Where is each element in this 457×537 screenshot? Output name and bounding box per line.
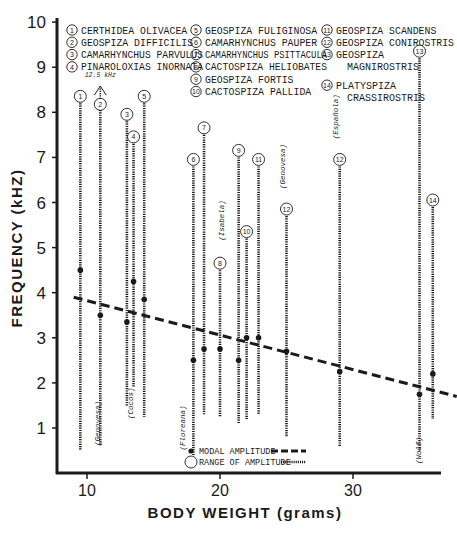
modal-dot	[256, 335, 262, 341]
y-tick-label: 3	[37, 329, 46, 348]
species-number: 9	[194, 76, 198, 83]
legend-modal-label: MODAL AMPLITUDE	[199, 447, 276, 457]
modal-dot	[201, 346, 207, 352]
species-marker-number: 14	[429, 197, 437, 204]
range-bars: 12(Genovesa)34(Cocos)56(Floreana)78(Isab…	[74, 45, 438, 464]
species-name: CACTOSPIZA PALLIDA	[205, 87, 311, 98]
range-bar-species-8: 8(Isabela)	[214, 200, 226, 416]
species-name: CAMARHYNCHUS PSITTACULA	[205, 50, 327, 61]
species-marker-number: 5	[142, 93, 146, 100]
modal-dot	[217, 346, 223, 352]
species-legend-item: 11GEOSPIZA SCANDENS	[322, 25, 437, 37]
species-number: 3	[70, 51, 74, 58]
modal-dot	[78, 267, 84, 273]
x-axis-label: BODY WEIGHT (grams)	[148, 504, 343, 521]
modal-dot	[244, 335, 250, 341]
legend-range-label: RANGE OF AMPLITUDE	[199, 458, 291, 468]
species-number: 10	[192, 88, 200, 95]
species-marker-number: 6	[191, 156, 195, 163]
modal-dot	[124, 319, 130, 325]
range-bar-species-4: 4(Cocos)	[127, 131, 140, 419]
circle-key	[185, 456, 197, 468]
range-bar-species-5: 5	[138, 90, 150, 416]
species-marker-number: 13	[416, 48, 424, 55]
range-bar-species-9: 9	[233, 144, 245, 423]
species-number: 2	[70, 39, 74, 46]
species-legend-item: 2GEOSPIZA DIFFICILIS	[67, 37, 193, 49]
modal-dot	[236, 358, 242, 364]
species-number: 7	[194, 51, 198, 58]
species-number: 12	[323, 39, 331, 46]
species-marker-number: 1	[78, 93, 82, 100]
species-name: GEOSPIZA DIFFICILIS	[81, 38, 193, 49]
overflow-annotation: 12.5 kHz	[85, 72, 116, 99]
arrow-note: 12.5 kHz	[85, 72, 116, 79]
species-marker-number: 12	[283, 206, 291, 213]
modal-dot	[191, 358, 197, 364]
species-marker-number: 12	[336, 156, 344, 163]
species-marker-number: 8	[218, 260, 222, 267]
range-bar-species-13: 13(Wolf)	[414, 45, 426, 464]
island-label: (Española)	[332, 94, 340, 139]
modal-dot-key	[188, 448, 193, 453]
species-number: 11	[323, 27, 330, 34]
species-number: 13	[323, 51, 331, 58]
species-legend-item: 10CACTOSPIZA PALLIDA	[191, 86, 311, 98]
y-tick-label: 6	[37, 194, 46, 213]
island-label: (Floreana)	[179, 405, 187, 450]
species-name: CAMARHYNCHUS PARVULUS	[81, 50, 203, 61]
species-legend: 1CERTHIDEA OLIVACEA2GEOSPIZA DIFFICILIS3…	[67, 25, 454, 104]
modal-amplitude-trend-line	[74, 297, 457, 396]
y-axis-label: FREQUENCY (kHZ)	[8, 169, 25, 328]
species-name: GEOSPIZA SCANDENS	[336, 26, 436, 37]
species-number: 6	[194, 39, 198, 46]
species-name: CERTHIDEA OLIVACEA	[81, 26, 187, 37]
range-bar-species-7: 7	[198, 122, 210, 415]
x-tick-label: 10	[78, 482, 96, 499]
x-tick-label: 30	[344, 482, 362, 499]
amplitude-legend: MODAL AMPLITUDERANGE OF AMPLITUDE	[185, 447, 306, 468]
species-legend-item: 5GEOSPIZA FULIGINOSA	[191, 25, 317, 37]
species-marker-number: 7	[202, 124, 206, 131]
species-marker-number: 11	[255, 156, 262, 163]
species-name: CAMARHYNCHUS PAUPER	[205, 38, 317, 49]
range-bar-species-1: 1	[74, 90, 86, 450]
range-bar-species-14: 14	[427, 194, 439, 419]
species-legend-item: 12GEOSPIZA CONIROSTRIS	[322, 37, 454, 49]
range-bar-species-6: 6(Floreana)	[179, 153, 199, 455]
species-legend-item: 7CAMARHYNCHUS PSITTACULA	[191, 49, 327, 61]
species-number: 1	[70, 27, 74, 34]
species-name: CACTOSPIZA HELIOBATES	[205, 62, 327, 73]
species-number: 4	[70, 64, 74, 71]
y-tick-label: 7	[37, 148, 46, 167]
range-bar-species-12: 12(Española)	[332, 94, 346, 446]
range-bar-species-11: 11	[253, 153, 265, 414]
species-number: 5	[194, 27, 198, 34]
species-marker-number: 2	[98, 101, 102, 108]
species-legend-item: 1CERTHIDEA OLIVACEA	[67, 25, 187, 37]
species-number: 14	[323, 82, 331, 89]
chart: 12345678910102030 1CERTHIDEA OLIVACEA2GE…	[0, 0, 457, 537]
modal-dot	[337, 369, 343, 375]
species-marker-number: 9	[237, 147, 241, 154]
modal-dot	[417, 391, 423, 397]
modal-dot	[141, 297, 147, 303]
x-tick-label: 20	[211, 482, 229, 499]
range-bar-species-3: 3	[121, 108, 133, 405]
species-legend-item: 8CACTOSPIZA HELIOBATES	[191, 62, 327, 74]
range-bar-species-10: 10	[241, 226, 253, 419]
species-name: MAGNIROSTRIS	[347, 62, 419, 73]
species-marker-number: 4	[132, 133, 136, 140]
y-tick-label: 8	[37, 103, 46, 122]
species-name: GEOSPIZA	[336, 50, 384, 61]
species-legend-item: 3CAMARHYNCHUS PARVULUS	[67, 49, 203, 61]
species-legend-item: 13GEOSPIZAMAGNIROSTRIS	[322, 49, 419, 73]
trend-line	[74, 297, 457, 396]
island-label: (Genovesa)	[279, 144, 287, 189]
island-label: (Wolf)	[415, 437, 423, 464]
species-name: GEOSPIZA FORTIS	[205, 75, 294, 86]
species-name: PLATYSPIZA	[336, 81, 396, 92]
species-name: CRASSIROSTRIS	[347, 93, 425, 104]
range-bar-species-12: 12(Genovesa)	[279, 144, 293, 437]
y-tick-label: 5	[37, 239, 46, 258]
